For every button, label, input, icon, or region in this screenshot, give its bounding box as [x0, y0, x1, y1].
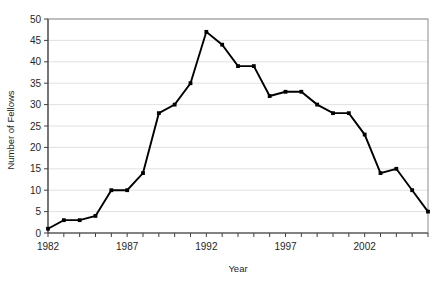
data-point	[173, 103, 177, 107]
y-tick-label: 5	[35, 206, 41, 217]
data-point	[394, 167, 398, 171]
y-tick-label: 0	[35, 228, 41, 239]
data-point	[331, 111, 335, 115]
data-point	[268, 94, 272, 98]
data-point	[125, 188, 129, 192]
data-point	[347, 111, 351, 115]
y-tick-label: 50	[30, 14, 42, 25]
x-axis-tick-labels: 19821987199219972002	[37, 241, 376, 252]
data-point	[157, 111, 161, 115]
data-point	[189, 81, 193, 85]
x-tick-label: 1997	[274, 241, 297, 252]
x-axis-title: Year	[228, 263, 247, 274]
data-point	[78, 218, 82, 222]
y-axis-tick-labels: 05101520253035404550	[30, 14, 42, 239]
data-series	[46, 30, 430, 231]
x-tick-label: 2002	[354, 241, 377, 252]
data-point	[94, 214, 98, 218]
y-tick-label: 20	[30, 142, 42, 153]
x-axis-ticks	[48, 233, 428, 237]
y-tick-label: 25	[30, 121, 42, 132]
data-point	[379, 171, 383, 175]
data-point	[426, 210, 430, 214]
data-point	[363, 133, 367, 137]
data-point	[46, 227, 50, 231]
data-point	[220, 43, 224, 47]
y-tick-label: 35	[30, 78, 42, 89]
y-tick-label: 45	[30, 35, 42, 46]
data-point	[410, 188, 414, 192]
data-point	[141, 171, 145, 175]
data-point	[252, 64, 256, 68]
y-tick-label: 40	[30, 56, 42, 67]
gridlines	[48, 19, 428, 212]
data-point	[204, 30, 208, 34]
series-line-number-of-fellows	[48, 32, 428, 229]
x-tick-label: 1992	[195, 241, 218, 252]
y-tick-label: 30	[30, 99, 42, 110]
data-point	[315, 103, 319, 107]
chart-container: 05101520253035404550 1982198719921997200…	[0, 0, 443, 283]
data-point	[284, 90, 288, 94]
y-tick-label: 15	[30, 163, 42, 174]
data-point	[236, 64, 240, 68]
x-tick-label: 1982	[37, 241, 60, 252]
y-tick-label: 10	[30, 185, 42, 196]
y-axis-title: Number of Fellows	[5, 90, 16, 169]
x-tick-label: 1987	[116, 241, 139, 252]
line-chart: 05101520253035404550 1982198719921997200…	[0, 0, 443, 283]
data-point	[299, 90, 303, 94]
data-point	[62, 218, 66, 222]
data-point	[109, 188, 113, 192]
